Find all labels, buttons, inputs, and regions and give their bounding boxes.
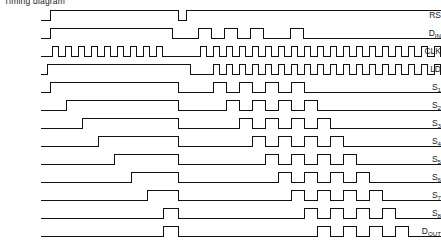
waveform-path xyxy=(41,28,441,38)
waveform-trace-s3 xyxy=(41,114,441,132)
waveform-path xyxy=(41,136,441,146)
waveform-trace-s7 xyxy=(41,186,441,204)
waveform-trace-s1 xyxy=(41,78,441,96)
waveform-path xyxy=(41,100,441,110)
waveform-trace-s8 xyxy=(41,204,441,222)
waveform-rows-container: RSDINCLKLDS1S2S3S4S5S6S7S8DOUT xyxy=(0,0,441,249)
waveform-row-s3: S3 xyxy=(0,114,441,132)
waveform-path xyxy=(41,10,441,20)
waveform-path xyxy=(41,226,441,236)
waveform-row-s8: S8 xyxy=(0,204,441,222)
waveform-row-d_in: DIN xyxy=(0,24,441,42)
waveform-path xyxy=(41,118,441,128)
timing-diagram-figure: Timing diagram RSDINCLKLDS1S2S3S4S5S6S7S… xyxy=(0,0,441,249)
waveform-row-s4: S4 xyxy=(0,132,441,150)
waveform-row-s5: S5 xyxy=(0,150,441,168)
waveform-trace-d_out xyxy=(41,222,441,240)
waveform-row-d_out: DOUT xyxy=(0,222,441,240)
waveform-path xyxy=(41,46,441,56)
waveform-row-rs: RS xyxy=(0,6,441,24)
waveform-trace-s2 xyxy=(41,96,441,114)
waveform-path xyxy=(41,190,441,200)
waveform-trace-clk xyxy=(41,42,441,60)
waveform-row-s6: S6 xyxy=(0,168,441,186)
waveform-trace-d_in xyxy=(41,24,441,42)
waveform-path xyxy=(41,208,441,218)
waveform-path xyxy=(41,154,441,164)
waveform-row-s2: S2 xyxy=(0,96,441,114)
waveform-row-clk: CLK xyxy=(0,42,441,60)
waveform-row-ld: LD xyxy=(0,60,441,78)
waveform-row-s1: S1 xyxy=(0,78,441,96)
waveform-path xyxy=(41,82,441,92)
waveform-trace-ld xyxy=(41,60,441,78)
waveform-trace-s6 xyxy=(41,168,441,186)
waveform-row-s7: S7 xyxy=(0,186,441,204)
waveform-path xyxy=(41,64,441,74)
waveform-path xyxy=(41,172,441,182)
waveform-trace-s4 xyxy=(41,132,441,150)
waveform-trace-rs xyxy=(41,6,441,24)
waveform-trace-s5 xyxy=(41,150,441,168)
